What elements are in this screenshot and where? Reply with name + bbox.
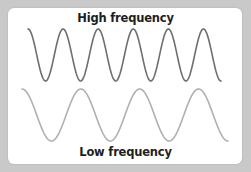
- low-frequency-label: Low frequency: [0, 145, 251, 159]
- high-frequency-wave: [28, 29, 221, 81]
- low-frequency-wave: [22, 89, 228, 141]
